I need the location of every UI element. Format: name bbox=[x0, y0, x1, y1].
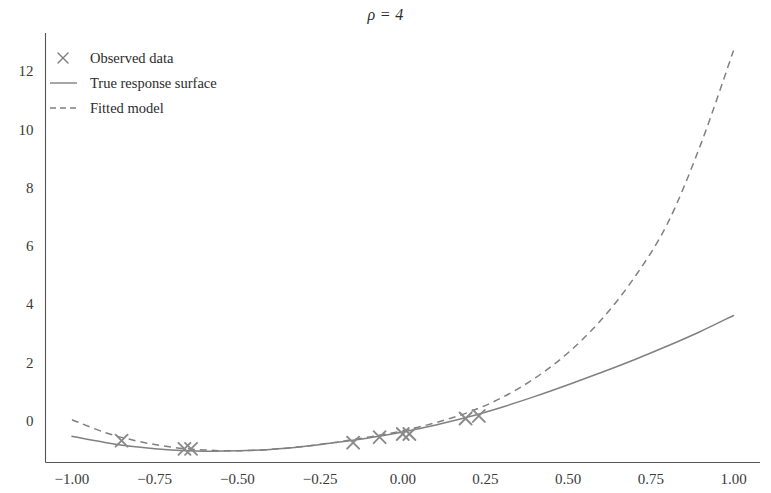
y-tick-label: 6 bbox=[26, 238, 34, 254]
legend-item-true-response-surface: True response surface bbox=[50, 75, 217, 91]
y-tick-label: 0 bbox=[26, 413, 34, 429]
x-tick-label: 1.00 bbox=[720, 471, 746, 487]
x-tick-label: −0.75 bbox=[137, 471, 172, 487]
y-axis-tick-labels: 024681012 bbox=[19, 63, 35, 428]
data-point-marker bbox=[185, 443, 197, 455]
chart-legend: Observed data True response surface Fitt… bbox=[50, 50, 217, 116]
legend-item-fitted-model: Fitted model bbox=[50, 100, 164, 116]
x-axis-tick-labels: −1.00−0.75−0.50−0.250.000.250.500.751.00 bbox=[55, 471, 747, 487]
y-tick-label: 12 bbox=[19, 63, 34, 79]
x-tick-label: 0.75 bbox=[638, 471, 664, 487]
data-point-marker bbox=[397, 428, 409, 440]
y-tick-label: 10 bbox=[19, 122, 34, 138]
y-tick-label: 8 bbox=[26, 180, 34, 196]
legend-item-observed-data: Observed data bbox=[58, 50, 174, 66]
legend-label-fitted-model: Fitted model bbox=[90, 100, 164, 116]
legend-label-true-response-surface: True response surface bbox=[90, 75, 217, 91]
series-markers-observed-data bbox=[116, 410, 485, 455]
y-tick-label: 2 bbox=[26, 355, 34, 371]
chart-figure: ρ = 4 024681012 −1.00−0.75−0.50−0.250.00… bbox=[0, 0, 771, 493]
x-tick-label: 0.00 bbox=[390, 471, 416, 487]
y-tick-label: 4 bbox=[26, 296, 34, 312]
marker-x-icon bbox=[58, 53, 68, 63]
plot-area: 024681012 −1.00−0.75−0.50−0.250.000.250.… bbox=[0, 0, 771, 493]
series-line-fitted-model bbox=[72, 50, 734, 450]
legend-label-observed-data: Observed data bbox=[90, 50, 174, 66]
x-tick-label: −0.50 bbox=[220, 471, 255, 487]
x-tick-label: 0.50 bbox=[555, 471, 581, 487]
x-tick-label: −1.00 bbox=[55, 471, 90, 487]
data-point-marker bbox=[347, 437, 359, 449]
x-tick-label: −0.25 bbox=[303, 471, 338, 487]
x-tick-label: 0.25 bbox=[472, 471, 498, 487]
data-point-marker bbox=[403, 428, 415, 440]
